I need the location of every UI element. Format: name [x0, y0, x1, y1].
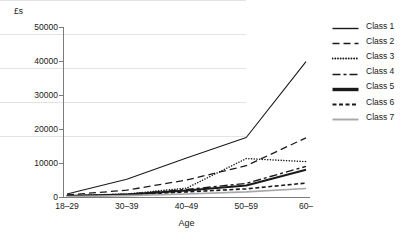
y-tick-mark	[59, 27, 63, 28]
legend-label: Class 7	[366, 112, 394, 122]
legend-swatch-icon	[332, 81, 359, 92]
y-tick-label: 10000	[0, 159, 58, 168]
legend-entry-4[interactable]: Class 4	[332, 64, 418, 79]
legend-swatch-icon	[332, 50, 359, 61]
legend-entry-7[interactable]: Class 7	[332, 109, 418, 124]
legend-swatch-icon	[332, 66, 359, 77]
y-tick-group	[0, 27, 58, 197]
legend-label: Class 5	[366, 81, 394, 91]
legend-label: Class 6	[366, 97, 394, 107]
legend-swatch-icon	[332, 111, 359, 122]
y-tick-mark	[59, 129, 63, 130]
legend-label: Class 2	[366, 36, 394, 46]
x-tick-label: 30–39	[115, 201, 139, 211]
y-tick-mark	[59, 197, 63, 198]
series-line	[67, 62, 306, 194]
legend-label: Class 3	[366, 51, 394, 61]
x-tick-label: 60–	[299, 201, 313, 211]
series-plot	[63, 27, 310, 198]
legend-entry-1[interactable]: Class 1	[332, 18, 418, 33]
gridline	[0, 0, 246, 1]
y-tick-label: 0	[0, 193, 58, 202]
x-tick-label: 50–59	[234, 201, 258, 211]
y-tick-mark	[59, 61, 63, 62]
legend-swatch-icon	[332, 20, 359, 31]
x-axis-title: Age	[63, 218, 310, 229]
legend-label: Class 4	[366, 66, 394, 76]
y-tick-label: 50000	[0, 23, 58, 32]
legend-swatch-icon	[332, 96, 359, 107]
legend-entry-3[interactable]: Class 3	[332, 48, 418, 63]
legend-entry-5[interactable]: Class 5	[332, 79, 418, 94]
y-tick-label: 20000	[0, 125, 58, 134]
x-tick-label: 18–29	[55, 201, 79, 211]
y-tick-mark	[59, 95, 63, 96]
y-tick-mark	[59, 163, 63, 164]
legend: Class 1Class 2Class 3Class 4Class 5Class…	[332, 18, 418, 124]
legend-label: Class 1	[366, 21, 394, 31]
legend-entry-6[interactable]: Class 6	[332, 94, 418, 109]
y-tick-label: 40000	[0, 57, 58, 66]
x-tick-label: 40–49	[175, 201, 199, 211]
line-chart-figure: £s Age Class 1Class 2Class 3Class 4Class…	[0, 0, 418, 247]
y-tick-label: 30000	[0, 91, 58, 100]
legend-entry-2[interactable]: Class 2	[332, 33, 418, 48]
legend-swatch-icon	[332, 35, 359, 46]
